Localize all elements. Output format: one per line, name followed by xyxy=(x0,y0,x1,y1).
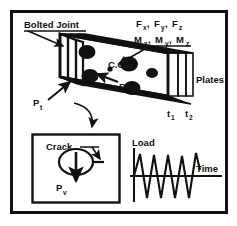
figure-canvas: Bolted Joint F x , F y , F z M x , M y ,… xyxy=(0,0,237,226)
moment-m-y-base: M xyxy=(155,34,163,45)
thickness-2-sub: 2 xyxy=(189,114,193,121)
pv-sub: v xyxy=(126,88,130,95)
force-sep-2: , xyxy=(165,18,168,29)
thickness-1-sub: 1 xyxy=(171,114,175,121)
crack-pv-base: P xyxy=(56,182,63,193)
crack-pv-sub: v xyxy=(63,189,67,196)
chart-y-axis-label: Load xyxy=(132,137,155,148)
chart-x-axis-label: Time xyxy=(196,163,218,174)
force-f-y-base: F xyxy=(154,18,160,29)
moment-m-z-base: M xyxy=(176,34,184,45)
crack-label: Crack xyxy=(46,141,73,152)
pt-base: P xyxy=(33,97,40,108)
force-f-z-base: F xyxy=(172,18,178,29)
pv-base: P xyxy=(119,81,126,92)
bolted-joint-figure: Bolted Joint F x , F y , F z M x , M y ,… xyxy=(0,0,237,226)
bolt-hole xyxy=(82,69,99,83)
moment-m-x-base: M xyxy=(134,34,142,45)
force-f-x-base: F xyxy=(136,18,142,29)
center-of-gravity-label: C.G xyxy=(108,59,125,70)
bolt-hole xyxy=(79,45,96,59)
bolt-hole xyxy=(146,68,158,78)
force-sep-1: , xyxy=(147,18,150,29)
moment-sep-1: , xyxy=(148,34,151,45)
moment-sep-2: , xyxy=(169,34,172,45)
plates-label: Plates xyxy=(196,74,224,85)
bolted-joint-label: Bolted Joint xyxy=(24,19,80,30)
